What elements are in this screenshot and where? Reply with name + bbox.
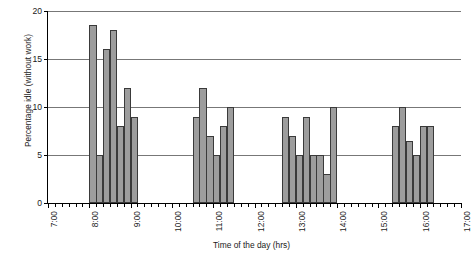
x-axis-title-text: Time of the day (hrs) [177,240,290,250]
x-tick-label: 8:00 [90,211,100,227]
x-tick-major [461,203,462,208]
x-tick-major [131,203,132,208]
y-tick-label: 15 [32,54,42,64]
x-tick-minor [220,203,221,207]
x-tick-minor [372,203,373,207]
x-tick-minor [62,203,63,207]
bar [427,126,434,203]
y-tick-label: 20 [32,6,42,16]
x-tick-minor [137,203,138,207]
bar [330,107,337,203]
x-tick-minor [165,203,166,207]
y-tick-mark [44,11,48,12]
x-tick-label: 9:00 [132,211,142,227]
x-tick-minor [440,203,441,207]
x-tick-minor [406,203,407,207]
x-tick-minor [275,203,276,207]
x-tick-minor [282,203,283,207]
x-tick-label: 13:00 [297,211,307,232]
x-tick-minor [55,203,56,207]
x-tick-label: 17:00 [462,211,472,232]
x-tick-label: 16:00 [421,211,431,232]
x-tick-major [89,203,90,208]
x-tick-minor [206,203,207,207]
x-tick-minor [289,203,290,207]
x-tick-major [420,203,421,208]
x-tick-major [255,203,256,208]
x-tick-minor [323,203,324,207]
plot-area: 05101520 7:008:009:0010:0011:0012:0013:0… [47,11,461,204]
x-tick-minor [316,203,317,207]
x-tick-minor [227,203,228,207]
x-tick-minor [69,203,70,207]
x-tick-minor [110,203,111,207]
x-tick-minor [234,203,235,207]
x-tick-minor [179,203,180,207]
x-tick-minor [433,203,434,207]
x-tick-label: 11:00 [214,211,224,231]
x-tick-minor [76,203,77,207]
x-tick-minor [399,203,400,207]
x-tick-minor [151,203,152,207]
x-axis-title: Time of the day (hrs) [0,240,467,250]
x-tick-minor [158,203,159,207]
y-tick-label: 5 [37,150,42,160]
x-tick-minor [454,203,455,207]
x-tick-minor [241,203,242,207]
x-tick-minor [82,203,83,207]
x-tick-minor [344,203,345,207]
x-tick-label: 12:00 [256,211,266,232]
x-tick-minor [248,203,249,207]
x-tick-minor [199,203,200,207]
x-tick-minor [358,203,359,207]
y-axis-title: Percentage idle (without work) [24,0,33,191]
x-tick-minor [96,203,97,207]
x-tick-minor [268,203,269,207]
y-tick-mark [44,155,48,156]
x-tick-minor [261,203,262,207]
x-tick-major [213,203,214,208]
gridline [48,11,461,12]
y-tick-mark [44,107,48,108]
x-tick-label: 7:00 [49,211,59,227]
x-tick-minor [186,203,187,207]
y-tick-label: 10 [32,102,42,112]
x-tick-minor [385,203,386,207]
x-tick-major [48,203,49,208]
x-tick-label: 10:00 [173,211,183,232]
x-tick-minor [103,203,104,207]
x-tick-minor [413,203,414,207]
x-tick-minor [351,203,352,207]
x-tick-minor [193,203,194,207]
x-tick-minor [124,203,125,207]
y-tick-label: 0 [37,198,42,208]
x-tick-minor [310,203,311,207]
x-tick-minor [117,203,118,207]
bar [227,107,234,203]
x-tick-minor [303,203,304,207]
x-tick-minor [330,203,331,207]
x-tick-label: 15:00 [379,211,389,232]
x-tick-major [172,203,173,208]
x-tick-minor [427,203,428,207]
x-tick-major [296,203,297,208]
bar [131,117,138,203]
x-tick-major [378,203,379,208]
x-tick-minor [447,203,448,207]
x-tick-minor [365,203,366,207]
y-tick-mark [44,59,48,60]
x-tick-minor [392,203,393,207]
x-tick-minor [144,203,145,207]
x-tick-major [337,203,338,208]
x-tick-label: 14:00 [338,211,348,232]
